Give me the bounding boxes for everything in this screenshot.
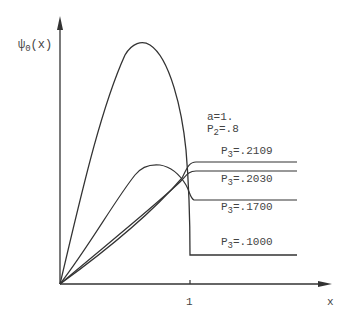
p2-prefix: P (207, 123, 214, 135)
param-a: a=1. (207, 111, 233, 123)
param-p2: P2=.8 (207, 123, 239, 139)
x-axis-label: x (327, 296, 334, 308)
x-axis-arrow-icon (318, 281, 332, 287)
legend-p3-2030: P3=.2030 (221, 173, 273, 189)
p3-prefix: P (221, 236, 228, 248)
p3-prefix: P (221, 201, 228, 213)
legend-p3-1000: P3=.1000 (221, 236, 273, 252)
y-axis-label: ψ0(x) (18, 39, 52, 55)
p3-value: =.1700 (233, 201, 273, 213)
y-axis-arrow-icon (57, 16, 63, 30)
p3-value: =.2109 (233, 145, 273, 157)
chart-canvas (0, 0, 353, 324)
p3-prefix: P (221, 173, 228, 185)
p3-prefix: P (221, 145, 228, 157)
p3-value: =.2030 (233, 173, 273, 185)
legend-p3-2109: P3=.2109 (221, 145, 273, 161)
x-tick-label-1: 1 (186, 296, 193, 308)
psi-argument: (x) (31, 38, 53, 52)
legend-p3-1700: P3=.1700 (221, 201, 273, 217)
p3-value: =.1000 (233, 236, 273, 248)
p2-value: =.8 (219, 123, 239, 135)
